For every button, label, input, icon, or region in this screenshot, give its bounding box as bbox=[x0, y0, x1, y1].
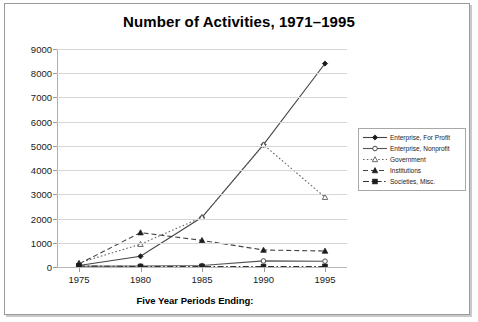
legend-key-icon bbox=[362, 154, 388, 165]
legend-item-label: Institutions bbox=[388, 165, 421, 176]
x-axis-tick-label: 1995 bbox=[314, 274, 335, 285]
x-axis-tick-label: 1975 bbox=[68, 274, 89, 285]
x-axis-title: Five Year Periods Ending: bbox=[0, 295, 390, 306]
gridline bbox=[57, 73, 347, 74]
y-axis-tick-labels: 0100020003000400050006000700080009000 bbox=[0, 49, 52, 267]
legend-item-label: Enterprise, Nonprofit bbox=[388, 143, 450, 154]
y-axis-tick-label: 8000 bbox=[31, 68, 52, 79]
y-axis-tick-mark bbox=[53, 267, 57, 268]
y-axis-tick-label: 9000 bbox=[31, 44, 52, 55]
chart-figure: Number of Activities, 1971–1995 01000200… bbox=[0, 0, 478, 322]
legend-item[interactable]: Government bbox=[361, 154, 463, 165]
gridline bbox=[57, 122, 347, 123]
data-point-filled-square bbox=[373, 179, 378, 184]
y-axis-tick-label: 2000 bbox=[31, 213, 52, 224]
chart-title: Number of Activities, 1971–1995 bbox=[0, 13, 478, 30]
gridline bbox=[57, 49, 347, 50]
y-axis-tick-label: 7000 bbox=[31, 92, 52, 103]
gridline bbox=[57, 243, 347, 244]
y-axis-tick-label: 1000 bbox=[31, 237, 52, 248]
gridline bbox=[57, 194, 347, 195]
legend-item[interactable]: Enterprise, Nonprofit bbox=[361, 143, 463, 154]
data-point-open-circle bbox=[261, 259, 266, 264]
y-axis-tick-label: 4000 bbox=[31, 165, 52, 176]
data-point-filled-diamond bbox=[372, 135, 377, 140]
y-axis-tick-mark bbox=[53, 73, 57, 74]
plot-area bbox=[57, 49, 347, 267]
x-axis-tick-label: 1990 bbox=[253, 274, 274, 285]
y-axis-tick-mark bbox=[53, 49, 57, 50]
chart-legend: Enterprise, For ProfitEnterprise, Nonpro… bbox=[358, 128, 466, 191]
y-axis-tick-label: 5000 bbox=[31, 140, 52, 151]
data-point-open-circle bbox=[373, 146, 378, 151]
y-axis-tick-mark bbox=[53, 146, 57, 147]
legend-item-label: Enterprise, For Profit bbox=[388, 132, 450, 143]
y-axis-tick-mark bbox=[53, 170, 57, 171]
legend-item[interactable]: Societies, Misc. bbox=[361, 176, 463, 187]
gridline bbox=[57, 170, 347, 171]
y-axis-tick-label: 6000 bbox=[31, 116, 52, 127]
series-government bbox=[76, 142, 327, 265]
legend-item-label: Societies, Misc. bbox=[388, 176, 435, 187]
x-axis-tick-mark bbox=[202, 268, 203, 272]
x-axis-tick-mark bbox=[325, 268, 326, 272]
series-enterprise-for-profit bbox=[76, 61, 327, 267]
data-point-open-triangle bbox=[372, 157, 377, 162]
data-point-open-circle bbox=[323, 259, 328, 264]
y-axis-tick-mark bbox=[53, 194, 57, 195]
legend-key-icon bbox=[362, 143, 388, 154]
y-axis-tick-mark bbox=[53, 219, 57, 220]
legend-key-icon bbox=[362, 165, 388, 176]
legend-key-icon bbox=[362, 176, 388, 187]
data-point-filled-triangle bbox=[138, 230, 144, 235]
gridline bbox=[57, 146, 347, 147]
x-axis-tick-mark bbox=[141, 268, 142, 272]
legend-key-icon bbox=[362, 132, 388, 143]
y-axis-tick-mark bbox=[53, 97, 57, 98]
gridline bbox=[57, 219, 347, 220]
x-axis-tick-label: 1985 bbox=[191, 274, 212, 285]
y-axis-tick-mark bbox=[53, 243, 57, 244]
y-axis-tick-mark bbox=[53, 122, 57, 123]
y-axis-tick-label: 0 bbox=[47, 262, 52, 273]
legend-item[interactable]: Institutions bbox=[361, 165, 463, 176]
x-axis-tick-mark bbox=[79, 268, 80, 272]
data-series-layer bbox=[57, 49, 347, 267]
legend-item[interactable]: Enterprise, For Profit bbox=[361, 132, 463, 143]
x-axis-tick-mark bbox=[264, 268, 265, 272]
legend-item-label: Government bbox=[388, 154, 426, 165]
x-axis-tick-labels: 19751980198519901995 bbox=[57, 274, 347, 290]
x-axis-tick-label: 1980 bbox=[130, 274, 151, 285]
gridline bbox=[57, 97, 347, 98]
y-axis-tick-label: 3000 bbox=[31, 189, 52, 200]
